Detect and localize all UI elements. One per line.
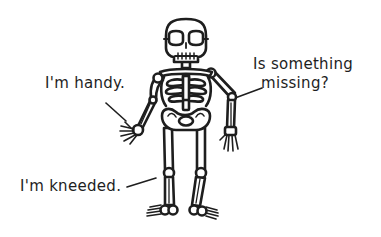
caption-missing-line2: missing?: [253, 74, 353, 93]
caption-missing: Is something missing?: [253, 55, 353, 93]
left-leg: [161, 128, 178, 215]
pointer-line-handy: [106, 103, 126, 121]
right-hand: [220, 134, 238, 151]
pelvis: [162, 109, 210, 130]
left-arm: [133, 74, 163, 136]
skeleton-illustration: [0, 0, 381, 237]
left-foot: [147, 205, 161, 216]
right-foot: [206, 207, 218, 219]
right-arm: [207, 69, 237, 136]
skeleton-cartoon: I'm handy. Is something missing? I'm kne…: [0, 0, 381, 237]
skull: [164, 19, 208, 68]
caption-kneeded: I'm kneeded.: [20, 177, 121, 196]
pointer-line-kneeded: [127, 178, 156, 187]
caption-missing-line1: Is something: [253, 55, 353, 74]
caption-handy: I'm handy.: [45, 74, 125, 93]
right-leg: [190, 128, 207, 216]
ribcage: [160, 69, 212, 106]
